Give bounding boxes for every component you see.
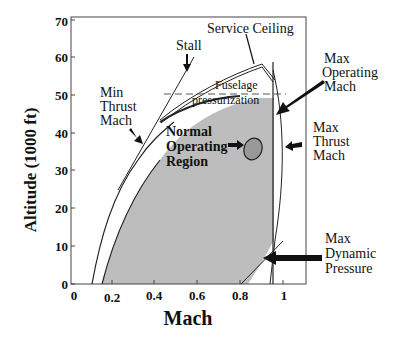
svg-text:Max: Max [325, 231, 351, 246]
svg-text:0.2: 0.2 [104, 290, 120, 305]
max-operating-mach-label: Max Operating Mach [322, 51, 378, 94]
service-ceiling-label: Service Ceiling [207, 21, 294, 36]
stall-label: Stall [176, 38, 202, 53]
svg-text:0: 0 [71, 288, 78, 303]
svg-text:Operating: Operating [166, 139, 227, 154]
svg-text:Mach: Mach [324, 79, 356, 94]
svg-text:40: 40 [55, 126, 68, 141]
svg-text:Max: Max [313, 120, 339, 135]
svg-text:Operating: Operating [322, 65, 378, 80]
svg-text:Max: Max [324, 51, 350, 66]
svg-text:Pressure: Pressure [325, 261, 372, 276]
max-thrust-mach-label: Max Thrust Mach [313, 120, 350, 163]
svg-text:60: 60 [55, 50, 68, 65]
svg-text:Mach: Mach [313, 148, 345, 163]
x-axis-title: Mach [164, 307, 213, 329]
y-axis-title: Altitude (1000 ft) [21, 108, 40, 233]
svg-text:Thrust: Thrust [313, 134, 350, 149]
svg-text:Normal: Normal [166, 124, 212, 139]
svg-text:Region: Region [166, 154, 208, 169]
svg-text:0.4: 0.4 [146, 288, 163, 303]
y-tick-labels: 0 10 20 30 40 50 60 70 [55, 14, 68, 292]
svg-text:Thrust: Thrust [100, 99, 137, 114]
stall-arrow [183, 54, 191, 72]
svg-text:0.6: 0.6 [189, 288, 206, 303]
x-tick-labels: 0 0.2 0.4 0.6 0.8 1 [71, 288, 288, 305]
svg-text:pressurization: pressurization [192, 93, 259, 107]
service-ceiling-pointer [246, 34, 254, 64]
svg-text:1: 1 [281, 288, 288, 303]
svg-text:70: 70 [55, 14, 68, 29]
svg-text:50: 50 [55, 88, 68, 103]
svg-text:20: 20 [55, 201, 68, 216]
svg-text:30: 30 [55, 163, 68, 178]
max-dynamic-pressure-label: Max Dynamic Pressure [325, 231, 376, 276]
svg-text:Min: Min [100, 85, 123, 100]
svg-text:0.8: 0.8 [232, 288, 249, 303]
svg-text:Mach: Mach [100, 113, 132, 128]
max-operating-mach-arrow [276, 80, 325, 115]
svg-text:10: 10 [55, 239, 68, 254]
max-thrust-mach-arrow [285, 141, 302, 151]
svg-text:Fuselage: Fuselage [215, 78, 258, 92]
min-thrust-mach-label: Min Thrust Mach [100, 85, 137, 128]
fuselage-pressurization-label: Fuselage pressurization [192, 78, 259, 107]
svg-text:Dynamic: Dynamic [325, 246, 376, 261]
y-axis-ticks [71, 20, 75, 284]
flight-envelope-diagram: 0 10 20 30 40 50 60 70 0 0.2 0.4 0.6 0.8… [0, 0, 401, 341]
min-thrust-mach-arrow [129, 128, 143, 144]
svg-text:0: 0 [62, 277, 69, 292]
